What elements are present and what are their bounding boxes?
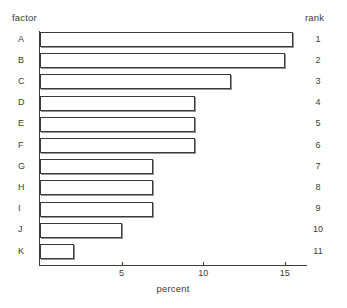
- rank-label-5: 5: [315, 118, 320, 128]
- bar-g: [40, 159, 153, 174]
- bar-e: [40, 117, 195, 132]
- rank-label-7: 7: [315, 161, 320, 171]
- category-label-i: I: [18, 203, 21, 213]
- rank-label-9: 9: [315, 203, 320, 213]
- bar-f: [40, 138, 195, 153]
- category-label-h: H: [18, 182, 25, 192]
- x-tick-mark-15: [285, 262, 286, 266]
- rank-label-8: 8: [315, 182, 320, 192]
- category-label-d: D: [18, 97, 25, 107]
- category-label-a: A: [18, 34, 24, 44]
- x-tick-label-5: 5: [119, 268, 124, 278]
- bar-c: [40, 74, 231, 89]
- bar-k: [40, 244, 74, 259]
- category-label-c: C: [18, 76, 25, 86]
- bar-d: [40, 96, 195, 111]
- bar-i: [40, 202, 153, 217]
- category-label-k: K: [18, 246, 24, 256]
- rank-column-header: rank: [305, 12, 324, 23]
- category-label-g: G: [18, 161, 25, 171]
- rank-label-2: 2: [315, 55, 320, 65]
- category-label-j: J: [18, 224, 23, 234]
- rank-label-3: 3: [315, 76, 320, 86]
- x-axis-title: percent: [156, 283, 189, 294]
- bar-a: [40, 32, 293, 47]
- x-axis-line: [39, 265, 307, 266]
- rank-label-10: 10: [313, 224, 323, 234]
- rank-label-4: 4: [315, 97, 320, 107]
- category-label-b: B: [18, 55, 24, 65]
- bar-h: [40, 180, 153, 195]
- x-tick-mark-5: [122, 262, 123, 266]
- rank-label-11: 11: [313, 246, 322, 256]
- category-label-e: E: [18, 118, 24, 128]
- x-tick-label-10: 10: [198, 268, 208, 278]
- x-tick-mark-10: [203, 262, 204, 266]
- bar-j: [40, 223, 122, 238]
- category-label-f: F: [18, 140, 24, 150]
- x-tick-label-15: 15: [280, 268, 290, 278]
- rank-label-6: 6: [315, 140, 320, 150]
- pareto-bar-chart: factor rank ABCDEFGHIJK 1234567891011 51…: [0, 0, 347, 308]
- rank-label-1: 1: [315, 34, 320, 44]
- factor-column-header: factor: [12, 12, 37, 23]
- bar-b: [40, 53, 285, 68]
